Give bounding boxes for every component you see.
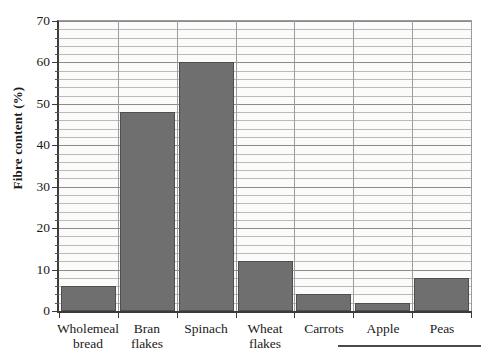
y-axis-tick-major xyxy=(52,311,59,312)
x-axis-category-label: Wholemeal bread xyxy=(57,321,119,351)
y-axis-tick-minor xyxy=(55,38,59,39)
y-axis-tick-minor xyxy=(55,129,59,130)
bar xyxy=(120,112,175,311)
page-bottom-rule xyxy=(338,345,481,347)
bar xyxy=(296,294,351,311)
x-axis-tick xyxy=(59,311,60,318)
gridline-vertical xyxy=(236,21,237,311)
y-axis-tick-label: 0 xyxy=(43,303,50,319)
y-axis-tick-minor xyxy=(55,54,59,55)
y-axis-tick-minor xyxy=(55,120,59,121)
y-axis-tick-minor xyxy=(55,278,59,279)
bar xyxy=(414,278,469,311)
y-axis-tick-label: 20 xyxy=(37,220,51,236)
y-axis-tick-minor xyxy=(55,87,59,88)
gridline-minor xyxy=(59,79,471,80)
y-axis-tick-major xyxy=(52,145,59,146)
x-axis-tick xyxy=(236,311,237,318)
y-axis-tick-minor xyxy=(55,212,59,213)
y-axis-tick-minor xyxy=(55,294,59,295)
y-axis-tick-label: 50 xyxy=(37,96,51,112)
y-axis-tick-label: 70 xyxy=(37,13,51,29)
gridline-minor xyxy=(59,87,471,88)
y-axis-tick-minor xyxy=(55,137,59,138)
y-axis-tick-minor xyxy=(55,71,59,72)
gridline-vertical xyxy=(177,21,178,311)
x-axis-tick xyxy=(412,311,413,318)
gridline-minor xyxy=(59,46,471,47)
x-axis-category-label: Peas xyxy=(430,321,455,336)
y-axis-tick-minor xyxy=(55,178,59,179)
bar xyxy=(179,62,234,311)
gridline-minor xyxy=(59,71,471,72)
y-axis-tick-major xyxy=(52,228,59,229)
x-axis-category-label: Apple xyxy=(367,321,400,336)
x-axis-tick xyxy=(177,311,178,318)
y-axis-tick-minor xyxy=(55,170,59,171)
y-axis-tick-minor xyxy=(55,236,59,237)
y-axis-tick-minor xyxy=(55,195,59,196)
y-axis-tick-minor xyxy=(55,79,59,80)
y-axis-tick-label: 30 xyxy=(37,178,51,194)
y-axis-tick-label: 10 xyxy=(37,261,51,277)
x-axis-tick xyxy=(353,311,354,318)
gridline-minor xyxy=(59,29,471,30)
y-axis-tick-major xyxy=(52,62,59,63)
y-axis-tick-minor xyxy=(55,154,59,155)
x-axis-category-label: Spinach xyxy=(184,321,228,336)
x-axis-tick xyxy=(294,311,295,318)
x-axis-category-label: Bran flakes xyxy=(131,321,163,351)
y-axis-tick-major xyxy=(52,187,59,188)
y-axis-tick-major xyxy=(52,270,59,271)
y-axis-title: Fibre content (%) xyxy=(10,53,26,223)
page-top-cut-text xyxy=(0,0,70,7)
x-axis-category-label: Carrots xyxy=(304,321,344,336)
gridline-vertical xyxy=(412,21,413,311)
bar xyxy=(238,261,293,311)
y-axis-tick-label: 40 xyxy=(37,137,51,153)
chart-plot-area: 010203040506070Wholemeal breadBran flake… xyxy=(57,20,472,313)
bar xyxy=(355,303,410,311)
gridline-minor xyxy=(59,54,471,55)
y-axis-tick-minor xyxy=(55,303,59,304)
y-axis-tick-minor xyxy=(55,261,59,262)
x-axis-tick xyxy=(118,311,119,318)
gridline-major xyxy=(59,62,471,63)
y-axis-tick-minor xyxy=(55,220,59,221)
y-axis-tick-minor xyxy=(55,112,59,113)
gridline-vertical xyxy=(353,21,354,311)
y-axis-tick-minor xyxy=(55,29,59,30)
gridline-major xyxy=(59,21,471,22)
gridline-vertical xyxy=(118,21,119,311)
y-axis-tick-minor xyxy=(55,245,59,246)
gridline-minor xyxy=(59,38,471,39)
y-axis-tick-major xyxy=(52,21,59,22)
x-axis-tick xyxy=(471,311,472,318)
y-axis-tick-minor xyxy=(55,286,59,287)
x-axis-category-label: Wheat flakes xyxy=(247,321,282,351)
y-axis-tick-minor xyxy=(55,253,59,254)
y-axis-tick-minor xyxy=(55,203,59,204)
gridline-minor xyxy=(59,96,471,97)
bar xyxy=(61,286,116,311)
y-axis-tick-minor xyxy=(55,162,59,163)
y-axis-tick-minor xyxy=(55,96,59,97)
y-axis-tick-minor xyxy=(55,46,59,47)
gridline-vertical xyxy=(294,21,295,311)
y-axis-tick-label: 60 xyxy=(37,54,51,70)
gridline-major xyxy=(59,104,471,105)
y-axis-tick-major xyxy=(52,104,59,105)
